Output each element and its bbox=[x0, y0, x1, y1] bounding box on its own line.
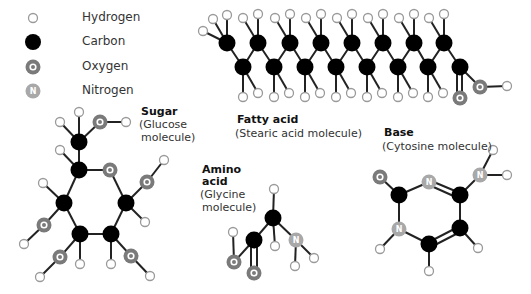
legend-oxygen-label: Oxygen bbox=[82, 59, 128, 73]
svg-text:N: N bbox=[477, 171, 484, 180]
amino-acid-title-2: acid bbox=[202, 175, 228, 188]
legend-carbon-label: Carbon bbox=[82, 34, 125, 48]
fatty-acid-title: Fatty acid bbox=[237, 113, 298, 126]
base-subtitle: (Cytosine molecule) bbox=[382, 140, 492, 153]
svg-text:N: N bbox=[30, 87, 37, 96]
legend-hydrogen-label: Hydrogen bbox=[82, 10, 140, 24]
nitrogen-atoms: N N NNN bbox=[26, 84, 488, 248]
sugar-title: Sugar bbox=[141, 105, 177, 118]
base-title: Base bbox=[384, 126, 414, 139]
svg-text:N: N bbox=[293, 236, 300, 245]
sugar-subtitle-1: (Glucose bbox=[139, 118, 187, 131]
legend-nitrogen-label: Nitrogen bbox=[82, 83, 134, 97]
amino-acid-subtitle-2: molecule) bbox=[202, 201, 256, 214]
svg-text:N: N bbox=[396, 225, 403, 234]
fatty-acid-subtitle: (Stearic acid molecule) bbox=[235, 127, 362, 140]
amino-acid-subtitle-1: (Glycine bbox=[200, 188, 245, 201]
sugar-subtitle-2: molecule) bbox=[141, 131, 195, 144]
svg-text:N: N bbox=[426, 178, 433, 187]
